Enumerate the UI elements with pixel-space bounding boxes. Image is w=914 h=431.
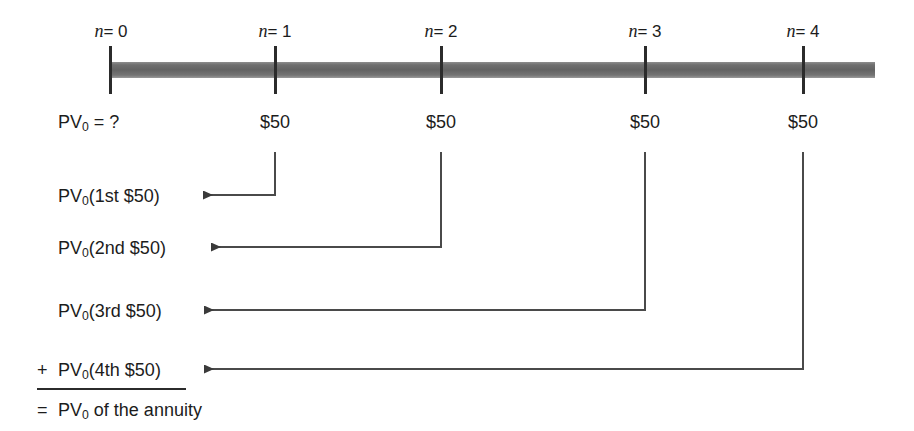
pv-text: PV	[58, 112, 82, 132]
period-label-n3: n= 3	[628, 22, 661, 41]
period-symbol-n: n	[786, 21, 795, 41]
pv-annuity-total: PV0 of the annuity	[58, 400, 202, 422]
pv-subscript: 0	[82, 120, 89, 134]
pv-component-4th: PV0(4th $50)	[58, 360, 161, 382]
pv-component-2nd: PV0(2nd $50)	[58, 238, 166, 260]
period-label-n4: n= 4	[786, 22, 819, 41]
cash-flow-n4: $50	[788, 112, 818, 132]
timeline-tick-n0	[109, 46, 112, 94]
period-symbol-n: n	[424, 21, 433, 41]
pv-component-tail: (4th $50)	[89, 360, 161, 380]
pv-subscript: 0	[82, 309, 89, 323]
timeline-tick-n4	[802, 46, 805, 94]
period-symbol-n: n	[94, 21, 103, 41]
period-label-n1: n= 1	[258, 22, 291, 41]
pv-text: PV	[58, 301, 82, 321]
timeline-tick-n2	[440, 46, 443, 94]
pv-component-tail: (3rd $50)	[89, 301, 162, 321]
period-value-n4: = 4	[795, 22, 819, 41]
timeline-tick-n3	[644, 46, 647, 94]
period-label-n2: n= 2	[424, 22, 457, 41]
pv-text: PV	[58, 186, 82, 206]
timeline-bar	[111, 62, 875, 78]
period-value-n2: = 2	[433, 22, 457, 41]
connector-3rd-payment	[204, 152, 645, 310]
annuity-timeline-figure: n= 0 n= 1 n= 2 n= 3 n= 4 PV0 = ? $50 $50…	[0, 0, 914, 431]
connector-2nd-payment	[211, 152, 441, 247]
pv-text: PV	[58, 400, 82, 420]
period-label-n0: n= 0	[94, 22, 127, 41]
cash-flow-n1: $50	[260, 112, 290, 132]
pv-component-tail: (1st $50)	[89, 186, 160, 206]
pv-subscript: 0	[82, 368, 89, 382]
equals-operator: =	[37, 400, 48, 420]
connector-4th-payment	[204, 152, 803, 369]
period-symbol-n: n	[258, 21, 267, 41]
period-value-n3: = 3	[637, 22, 661, 41]
pv-text: PV	[58, 360, 82, 380]
pv-subscript: 0	[82, 408, 89, 422]
connector-1st-payment	[203, 152, 275, 195]
present-value-unknown-label: PV0 = ?	[58, 112, 119, 134]
pv-component-3rd: PV0(3rd $50)	[58, 301, 162, 323]
timeline-tick-n1	[274, 46, 277, 94]
period-value-n0: = 0	[103, 22, 127, 41]
pv-unknown-tail: = ?	[89, 112, 120, 132]
pv-text: PV	[58, 238, 82, 258]
cash-flow-n2: $50	[426, 112, 456, 132]
period-value-n1: = 1	[267, 22, 291, 41]
pv-component-tail: (2nd $50)	[89, 238, 166, 258]
pv-total-tail: of the annuity	[89, 400, 202, 420]
period-symbol-n: n	[628, 21, 637, 41]
pv-subscript: 0	[82, 246, 89, 260]
plus-operator: +	[37, 360, 48, 380]
summation-rule	[37, 388, 186, 390]
cash-flow-n3: $50	[630, 112, 660, 132]
pv-subscript: 0	[82, 194, 89, 208]
pv-component-1st: PV0(1st $50)	[58, 186, 160, 208]
